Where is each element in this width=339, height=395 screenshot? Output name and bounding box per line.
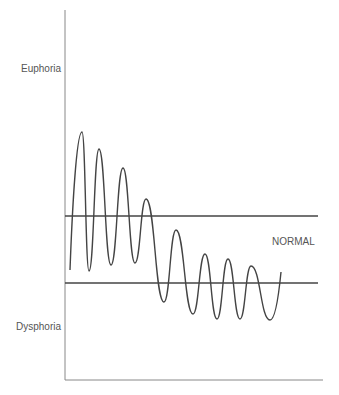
chart-plot-area [0,0,339,395]
euphoria-label: Euphoria [21,63,61,75]
dysphoria-label: Dysphoria [16,321,61,333]
mood-oscillation-line [70,132,281,320]
mood-chart: Euphoria Dysphoria NORMAL [0,0,339,395]
normal-label: NORMAL [272,236,315,248]
